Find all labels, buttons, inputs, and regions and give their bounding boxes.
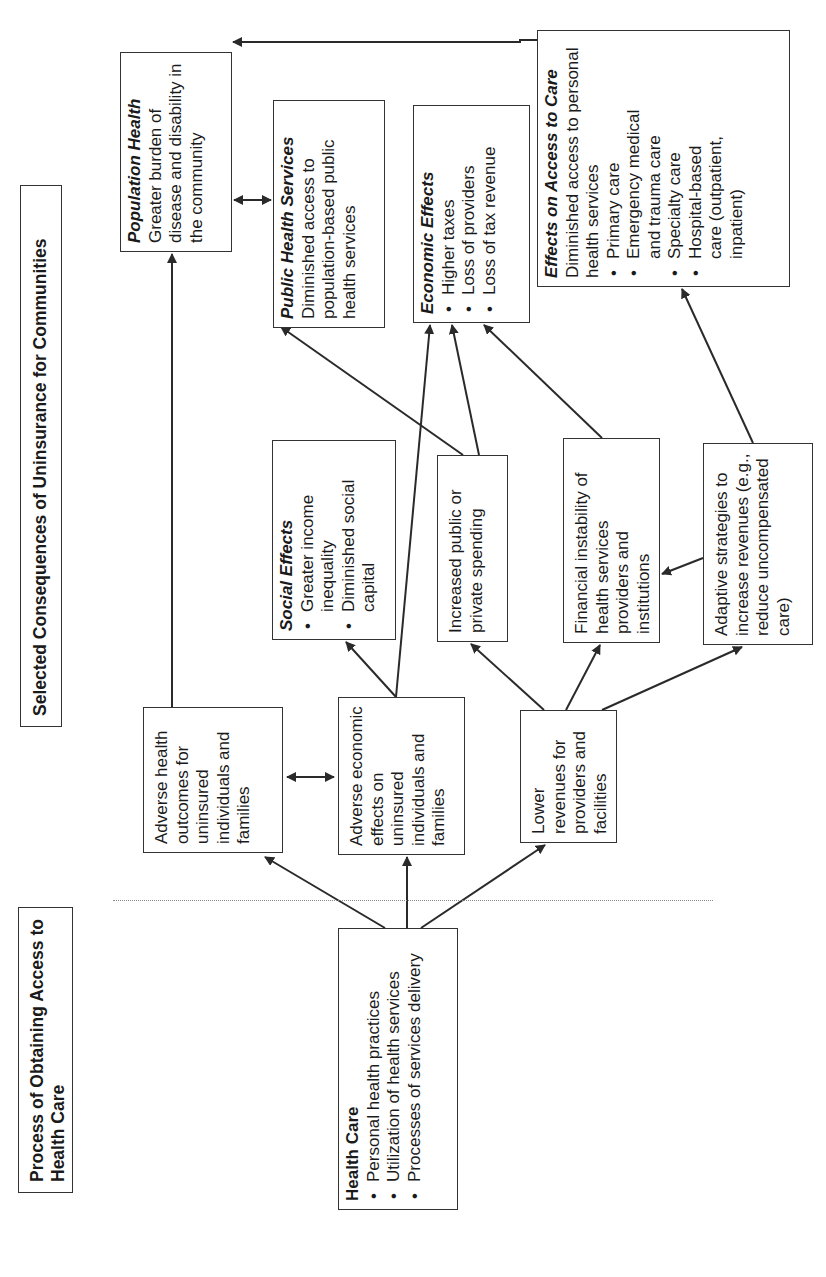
social-effects-list: Greater income inequality Diminished soc…: [298, 449, 380, 631]
process-title-text: Process of Obtaining Access to Health Ca…: [27, 919, 68, 1182]
public-health-services-text: Diminished access to population-based pu…: [299, 139, 359, 319]
list-item: Loss of tax revenue: [480, 114, 501, 314]
list-item: Higher taxes: [439, 114, 460, 314]
adaptive-strategies-box: Adaptive strategies to increase revenues…: [703, 443, 813, 645]
population-health-heading: Population Health: [125, 61, 146, 243]
increased-spending-box: Increased public or private spending: [437, 455, 508, 642]
list-item: Utilization of health services: [384, 937, 405, 1201]
adverse-health-outcomes-box: Adverse health outcomes for uninsured in…: [143, 707, 283, 853]
population-health-box: Population Health Greater burden of dise…: [120, 52, 232, 252]
health-care-heading: Health Care: [343, 937, 364, 1201]
social-effects-box: Social Effects Greater income inequality…: [272, 440, 396, 640]
consequences-section-title: Selected Consequences of Uninsurance for…: [20, 185, 62, 727]
uninsurance-consequences-diagram: Process of Obtaining Access to Health Ca…: [0, 0, 826, 1277]
effects-on-access-list: Primary care Emergency medical and traum…: [604, 108, 748, 278]
list-item: Emergency medical and trauma care: [624, 108, 665, 278]
adaptive-strategies-text: Adaptive strategies to increase revenues…: [712, 454, 793, 636]
adverse-economic-text: Adverse economic effects on uninsured in…: [347, 706, 448, 846]
list-item: Hospital-based care (outpatient, inpatie…: [686, 108, 748, 278]
health-care-box: Health Care Personal health practices Ut…: [338, 928, 458, 1210]
financial-instability-box: Financial instability of health services…: [563, 438, 660, 643]
list-item: Diminished social capital: [339, 449, 380, 631]
adverse-economic-effects-box: Adverse economic effects on uninsured in…: [338, 697, 465, 855]
list-item: Specialty care: [665, 108, 686, 278]
section-divider: [113, 900, 713, 901]
lower-revenues-box: Lower revenues for providers and facilit…: [520, 710, 617, 843]
economic-effects-heading: Economic Effects: [418, 114, 439, 314]
list-item: Greater income inequality: [298, 449, 339, 631]
social-effects-heading: Social Effects: [277, 449, 298, 631]
population-health-text: Greater burden of disease and disability…: [146, 63, 206, 243]
economic-effects-box: Economic Effects Higher taxes Loss of pr…: [413, 105, 530, 323]
list-item: Processes of services delivery: [405, 937, 426, 1201]
effects-on-access-text: Diminished access to personal health ser…: [563, 47, 603, 278]
list-item: Personal health practices: [364, 937, 385, 1201]
lower-revenues-text: Lower revenues for providers and facilit…: [529, 731, 610, 834]
consequences-title-text: Selected Consequences of Uninsurance for…: [30, 239, 50, 716]
health-care-list: Personal health practices Utilization of…: [364, 937, 426, 1201]
increased-spending-text: Increased public or private spending: [446, 489, 486, 633]
adverse-health-text: Adverse health outcomes for uninsured in…: [152, 731, 253, 844]
process-section-title: Process of Obtaining Access to Health Ca…: [18, 907, 73, 1193]
effects-on-access-box: Effects on Access to Care Diminished acc…: [537, 30, 790, 287]
economic-effects-list: Higher taxes Loss of providers Loss of t…: [439, 114, 501, 314]
list-item: Primary care: [604, 108, 625, 278]
public-health-services-heading: Public Health Services: [278, 109, 299, 319]
list-item: Loss of providers: [459, 114, 480, 314]
effects-on-access-heading: Effects on Access to Care: [542, 39, 563, 278]
financial-instability-text: Financial instability of health services…: [572, 472, 653, 634]
public-health-services-box: Public Health Services Diminished access…: [273, 100, 385, 328]
